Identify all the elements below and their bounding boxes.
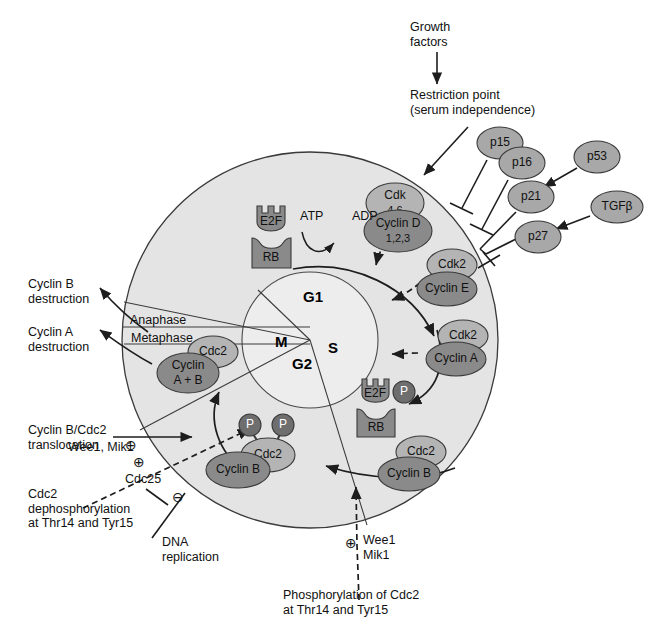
- phosphate-thr14-label: P: [246, 417, 254, 431]
- label-phosphorylation-bottom: Phosphorylation of Cdc2at Thr14 and Tyr1…: [283, 588, 419, 617]
- label-cdc2-dephosphorylation: Cdc2dephosphorylationat Thr14 and Tyr15: [28, 487, 133, 531]
- label-restriction-point: Restriction point(serum independence): [410, 88, 535, 117]
- sign-wee1-mik1-plus: ⊕: [345, 536, 357, 551]
- restriction-point-arrow: [424, 127, 468, 175]
- e2f-bound-label: E2F: [260, 214, 282, 228]
- tgfb-label: TGFβ: [602, 199, 633, 213]
- sign-dna-replication-minus: ⊖: [172, 490, 184, 505]
- p16-label: p16: [512, 155, 532, 169]
- cdk46-kinase-label: Cdk: [384, 188, 406, 202]
- label-wee1-mik1-bottom: Wee1Mik1: [363, 533, 395, 562]
- inhibitor-p53: p53: [574, 141, 620, 173]
- cyclinb-label: Cyclin B: [387, 466, 431, 480]
- cell-cycle-diagram: Cdk 4,6 Cyclin D 1,2,3 Cdk2 Cyclin E Cdk…: [0, 0, 663, 627]
- e2f-phospho-label: E2F: [364, 386, 386, 400]
- label-wee1-mik1-left: Wee1, Mik1: [68, 440, 134, 455]
- cdk2-cycline-kinase-label: Cdk2: [438, 257, 466, 271]
- p21-label: p21: [521, 189, 541, 203]
- cycline-label: Cyclin E: [425, 281, 469, 295]
- p53-label: p53: [587, 149, 607, 163]
- p27-label: p27: [528, 229, 548, 243]
- cyclinab-label: Cyclin: [172, 358, 205, 372]
- cdc2-cyclinb-kinase-label: Cdc2: [407, 444, 435, 458]
- label-growth-factors: Growthfactors: [410, 20, 450, 49]
- sign-wee1-mik1-minus: ⊖: [125, 438, 137, 453]
- label-adp: ADP: [352, 209, 378, 224]
- inhibitor-p16: p16: [499, 147, 545, 179]
- cyclinb-phospho-label: Cyclin B: [216, 462, 260, 476]
- cyclina-label: Cyclin A: [434, 351, 477, 365]
- rb-phospho-label: RB: [368, 420, 385, 434]
- label-cyclin-a-destruction: Cyclin Adestruction: [28, 325, 89, 354]
- inhibitor-p21: p21: [508, 181, 554, 213]
- band-label-anaphase: Anaphase: [130, 313, 186, 327]
- cdk2-cyclina-kinase-label: Cdk2: [449, 328, 477, 342]
- rb-phosphate-label: P: [400, 384, 408, 398]
- inhibitor-p27: p27: [515, 221, 561, 253]
- label-atp: ATP: [300, 209, 323, 224]
- phase-label-G2: G2: [292, 355, 312, 372]
- sign-cdc25-plus: ⊕: [133, 455, 145, 470]
- phase-label-S: S: [328, 339, 338, 356]
- phase-label-G1: G1: [303, 288, 323, 305]
- p15-label: p15: [490, 135, 510, 149]
- diagram-canvas: Cdk 4,6 Cyclin D 1,2,3 Cdk2 Cyclin E Cdk…: [0, 0, 663, 627]
- phosphate-tyr15-label: P: [279, 417, 287, 431]
- cyclinab-sub: A + B: [173, 373, 202, 387]
- rb-bound-label: RB: [263, 250, 280, 264]
- band-label-metaphase: Metaphase: [131, 331, 193, 345]
- label-cdc25: Cdc25: [125, 472, 161, 487]
- cyclind-label: Cyclin D: [376, 216, 421, 230]
- label-dna-replication: DNAreplication: [162, 535, 219, 564]
- cyclind-sub: 1,2,3: [386, 232, 410, 244]
- phase-label-M: M: [275, 333, 288, 350]
- inhibitor-tgfb: TGFβ: [591, 191, 643, 223]
- label-cyclin-b-destruction: Cyclin Bdestruction: [28, 277, 89, 306]
